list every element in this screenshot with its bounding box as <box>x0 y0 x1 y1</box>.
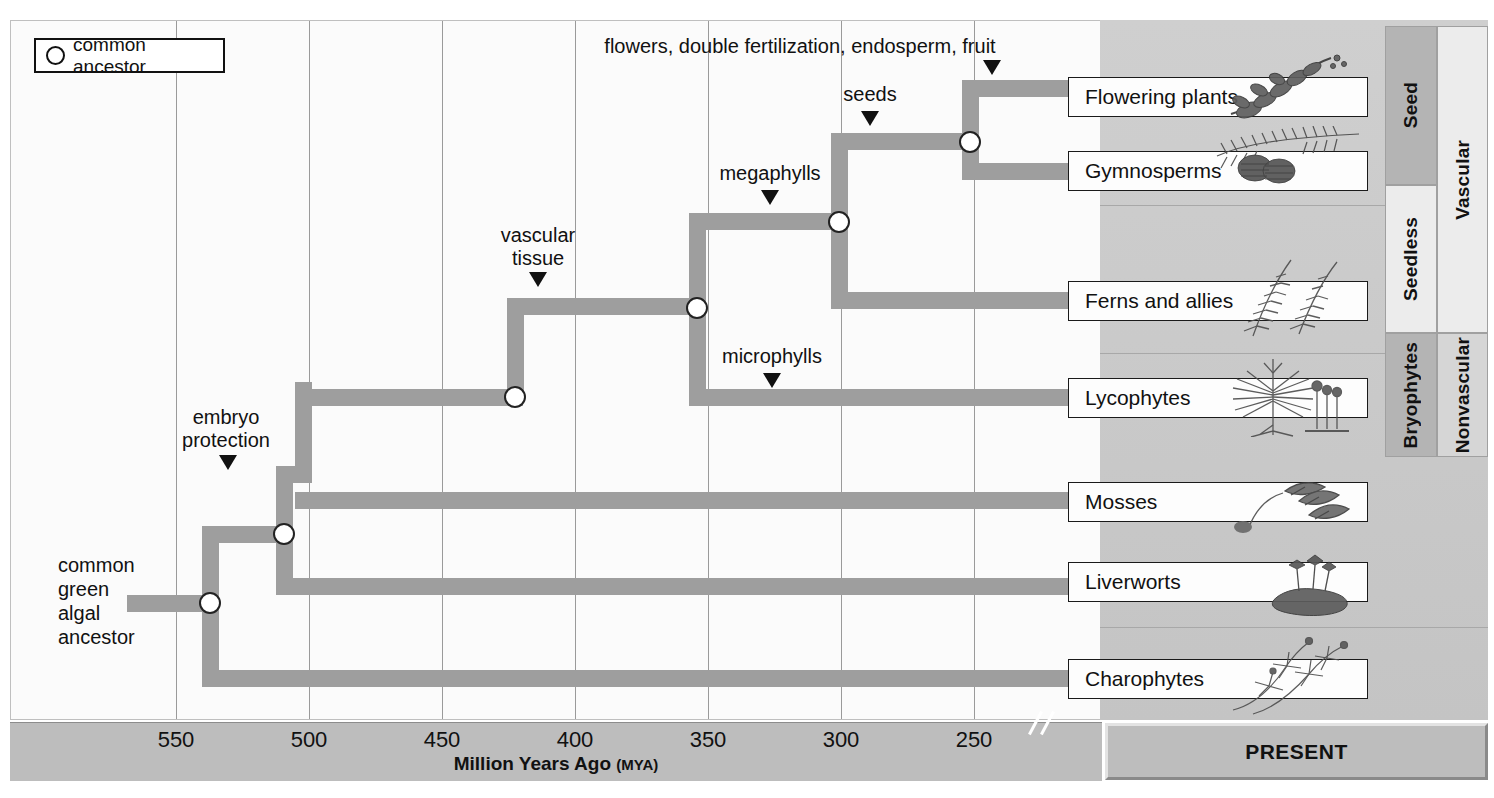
annotation-embryo-line-1: embryo <box>166 406 286 429</box>
node-embryophyte <box>273 523 295 545</box>
taxon-box-charophytes[interactable]: Charophytes <box>1068 659 1368 699</box>
taxon-box-flowering-plants[interactable]: Flowering plants <box>1068 77 1368 117</box>
taxon-label-mosses: Mosses <box>1069 490 1157 514</box>
axis-tick-300: 300 <box>823 727 860 753</box>
branch-gymnosperms <box>962 163 1077 180</box>
axis-tick-400: 400 <box>557 727 594 753</box>
gridline-450 <box>442 21 443 719</box>
present-label: PRESENT <box>1245 740 1348 764</box>
annotation-microphylls: microphylls <box>702 346 842 367</box>
legend-common-ancestor: common ancestor <box>34 38 225 73</box>
annotation-flowers: flowers, double fertilization, endosperm… <box>590 36 1010 57</box>
taxon-label-flowering-plants: Flowering plants <box>1069 85 1238 109</box>
root-label-line-4: ancestor <box>58 625 150 649</box>
legend-label: common ancestor <box>73 34 223 78</box>
category-label-bryophytes: Bryophytes <box>1400 342 1422 449</box>
annotation-arrow-megaphylls <box>761 190 779 205</box>
root-label-line-1: common <box>58 553 150 577</box>
taxon-box-ferns-and-allies[interactable]: Ferns and allies <box>1068 281 1368 321</box>
axis-title-unit: (MYA) <box>616 756 658 773</box>
annotation-arrow-embryo-protection <box>219 455 237 470</box>
branch-to-seed-node <box>831 133 978 150</box>
category-column-vascular: Vascular <box>1437 26 1488 333</box>
branch-liverworts <box>276 578 1077 595</box>
row-divider-bryo-charo <box>1100 627 1488 628</box>
axis-tick-550: 550 <box>158 727 195 753</box>
annotation-megaphylls: megaphylls <box>700 163 840 184</box>
root-ancestor-label: common green algal ancestor <box>58 553 150 649</box>
present-button[interactable]: PRESENT <box>1105 723 1488 780</box>
branch-charophytes <box>202 670 1077 687</box>
branch-ferns <box>831 292 1077 309</box>
branch-lycophytes <box>689 389 1077 406</box>
annotation-arrow-seeds <box>861 111 879 126</box>
annotation-embryo-protection: embryo protection <box>166 406 286 452</box>
category-label-seedless: Seedless <box>1400 217 1422 301</box>
annotation-seeds: seeds <box>820 84 920 105</box>
circle-node-icon <box>46 46 65 65</box>
taxon-box-lycophytes[interactable]: Lycophytes <box>1068 378 1368 418</box>
gridline-550 <box>176 21 177 719</box>
axis-break-icon <box>1028 712 1062 734</box>
node-megaphyll <box>828 211 850 233</box>
category-column-seedless: Seedless <box>1385 185 1437 333</box>
node-vascular <box>504 386 526 408</box>
phylogeny-figure: Seed Seedless Bryophytes Vascular Nonvas… <box>0 0 1494 798</box>
branch-flowering-plants <box>962 80 1077 97</box>
category-label-vascular: Vascular <box>1452 140 1474 220</box>
axis-tick-500: 500 <box>291 727 328 753</box>
annotation-arrow-vascular-tissue <box>529 272 547 287</box>
category-label-nonvascular: Nonvascular <box>1452 337 1474 453</box>
branch-mosses <box>295 492 1077 509</box>
branch-to-megaphyll-node <box>689 213 847 230</box>
taxon-box-mosses[interactable]: Mosses <box>1068 482 1368 522</box>
root-label-line-2: green <box>58 577 150 601</box>
taxon-label-liverworts: Liverworts <box>1069 570 1181 594</box>
branch-to-vascular-node <box>295 389 523 406</box>
axis-title-main: Million Years Ago <box>454 753 611 774</box>
gridline-500 <box>309 21 310 719</box>
node-euphyll <box>686 297 708 319</box>
time-axis: 550 500 450 400 350 300 250 Million Year… <box>10 722 1102 781</box>
category-column-bryophytes: Bryophytes <box>1385 333 1437 457</box>
gridline-400 <box>575 21 576 719</box>
taxon-label-ferns-and-allies: Ferns and allies <box>1069 289 1233 313</box>
axis-tick-350: 350 <box>690 727 727 753</box>
node-seed <box>959 131 981 153</box>
taxon-box-liverworts[interactable]: Liverworts <box>1068 562 1368 602</box>
annotation-vascular-tissue: vascular tissue <box>488 224 588 270</box>
annotation-arrow-microphylls <box>763 373 781 388</box>
annotation-arrow-flowers <box>983 60 1001 75</box>
taxon-label-gymnosperms: Gymnosperms <box>1069 159 1222 183</box>
axis-tick-250: 250 <box>956 727 993 753</box>
category-label-seed: Seed <box>1400 82 1422 128</box>
axis-title: Million Years Ago (MYA) <box>10 753 1102 775</box>
gridline-350 <box>708 21 709 719</box>
annotation-vascular-line-1: vascular <box>488 224 588 247</box>
annotation-vascular-line-2: tissue <box>488 247 588 270</box>
axis-tick-450: 450 <box>424 727 461 753</box>
taxon-box-gymnosperms[interactable]: Gymnosperms <box>1068 151 1368 191</box>
taxon-label-lycophytes: Lycophytes <box>1069 386 1190 410</box>
taxon-label-charophytes: Charophytes <box>1069 667 1204 691</box>
root-label-line-3: algal <box>58 601 150 625</box>
node-root <box>199 592 221 614</box>
category-column-nonvascular: Nonvascular <box>1437 333 1488 457</box>
category-column-seed: Seed <box>1385 26 1437 185</box>
annotation-embryo-line-2: protection <box>166 429 286 452</box>
branch-to-euphyll-node <box>507 298 705 315</box>
gridline-300 <box>841 21 842 719</box>
